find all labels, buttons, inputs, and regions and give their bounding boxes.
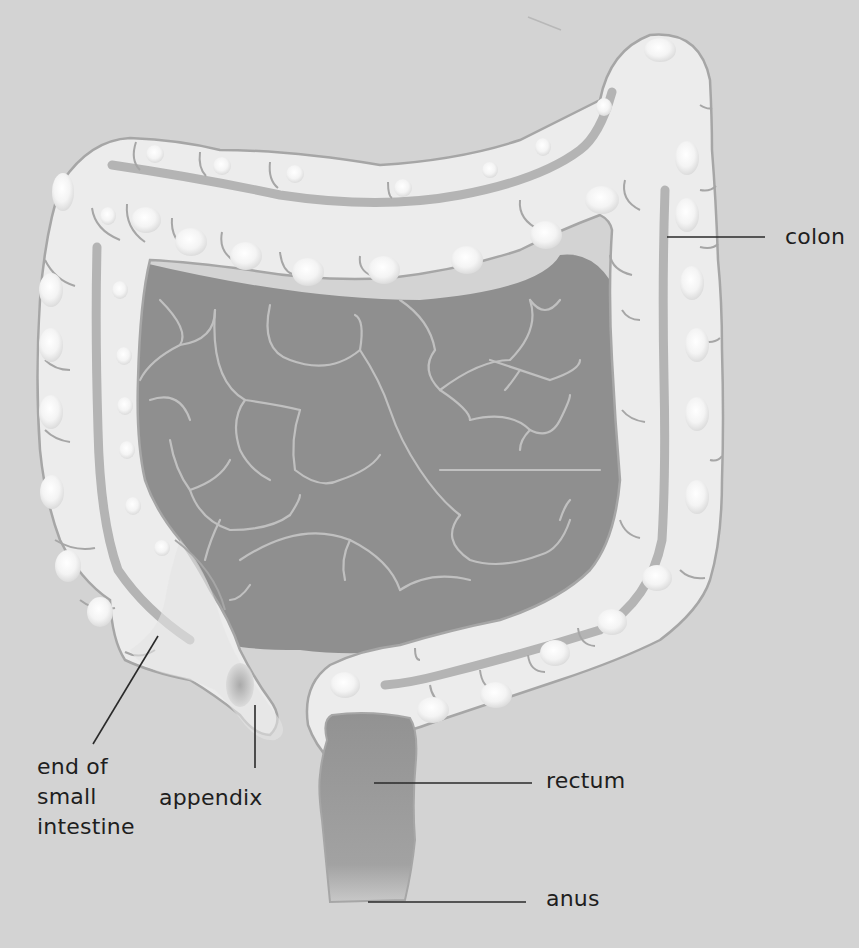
intestine-diagram: colon end of small intestine appendix re… (0, 0, 859, 948)
label-appendix: appendix (159, 783, 263, 813)
label-colon: colon (785, 222, 845, 252)
label-rectum: rectum (546, 766, 625, 796)
label-anus: anus (546, 884, 600, 914)
label-end-of-small-intestine: end of small intestine (37, 752, 135, 842)
stray-mark (528, 17, 561, 30)
rectum (319, 713, 416, 902)
